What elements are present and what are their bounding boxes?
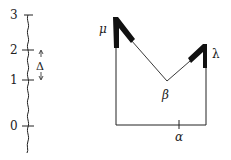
delta-label: Δ bbox=[36, 60, 44, 73]
left-scale: 3 2 1 0 Δ bbox=[10, 8, 44, 153]
mu-bold-arrow-icon bbox=[113, 17, 135, 48]
alpha-label: α bbox=[175, 130, 183, 144]
mu-to-beta-line bbox=[131, 40, 167, 81]
right-diagram: μ λ β α bbox=[99, 17, 220, 144]
lambda-bold-arrow-icon bbox=[188, 44, 207, 68]
diagram-canvas: 3 2 1 0 Δ μ λ β α bbox=[0, 0, 231, 160]
tick-label-3: 3 bbox=[10, 8, 18, 22]
beta-to-lambda-line bbox=[167, 61, 190, 81]
beta-label: β bbox=[161, 88, 169, 102]
tick-label-1: 1 bbox=[10, 73, 18, 87]
tick-label-0: 0 bbox=[10, 119, 18, 133]
lambda-label: λ bbox=[212, 47, 220, 61]
mu-label: μ bbox=[99, 22, 107, 36]
wavy-axis-line bbox=[27, 15, 29, 153]
tick-label-2: 2 bbox=[10, 43, 18, 57]
